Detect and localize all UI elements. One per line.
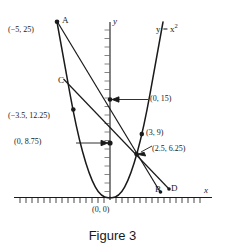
y-axis-ticks (105, 30, 111, 192)
label-point-25-625: (2.5, 6.25) (152, 145, 185, 153)
label-point-a: A (62, 16, 69, 25)
label-point-3-9: (3, 9) (146, 129, 163, 137)
point-a-marker (55, 20, 60, 25)
curve-exponent: 2 (175, 22, 178, 29)
label-curve-equation: y = x2 (156, 23, 178, 34)
label-point-0-875: (0, 8.75) (14, 138, 41, 146)
label-point-c: C (58, 76, 64, 85)
label-point-0-15: (0, 15) (150, 95, 171, 103)
figure-3-container: (−5, 25) A y y = x2 (0, 15) C (−3.5, 12.… (0, 0, 225, 252)
point-3-9-marker (140, 132, 145, 137)
curve-equation-text: y = x (156, 24, 175, 34)
label-point-c-coords: (−3.5, 12.25) (8, 112, 50, 120)
label-point-b: B (155, 185, 161, 194)
label-x-axis: x (204, 186, 208, 195)
label-point-a-coords: (−5, 25) (8, 26, 34, 34)
graph-canvas (0, 0, 225, 252)
figure-caption: Figure 3 (0, 228, 225, 243)
label-origin: (0, 0) (92, 206, 109, 214)
label-point-d: D (171, 184, 178, 193)
label-y-axis: y (113, 17, 117, 26)
leader-arrow-0-15 (112, 97, 148, 102)
point-c-marker (71, 107, 76, 112)
